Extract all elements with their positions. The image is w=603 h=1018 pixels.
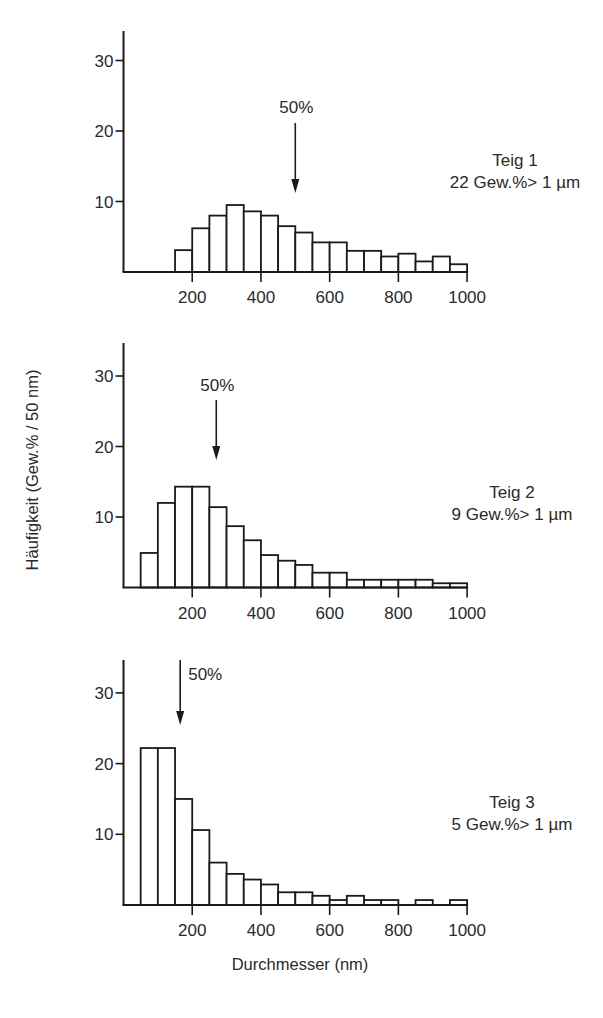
histogram-bar — [261, 555, 278, 587]
panel-3-title: Teig 3 — [437, 792, 587, 814]
x-tick-label: 600 — [315, 604, 343, 623]
arrow-head-icon — [212, 446, 220, 460]
histogram-bar — [278, 561, 295, 588]
panel-1-note: 22 Gew.%> 1 µm — [440, 172, 590, 194]
histogram-bar — [175, 487, 192, 588]
histogram-bar — [227, 874, 244, 905]
histogram-bar — [312, 896, 329, 905]
histogram-bar — [209, 507, 226, 587]
median-label: 50% — [188, 665, 222, 684]
x-axis-title: Durchmesser (nm) — [232, 955, 369, 974]
y-tick-label: 10 — [95, 193, 114, 212]
histogram-bar — [175, 799, 192, 905]
histogram-bar — [381, 256, 398, 272]
histogram-bar — [398, 254, 415, 272]
y-tick-label: 20 — [95, 755, 114, 774]
histogram-bar — [312, 242, 329, 272]
histogram-bar — [398, 580, 415, 588]
histogram-bar — [244, 211, 261, 272]
x-tick-label: 800 — [384, 604, 412, 623]
y-tick-label: 30 — [95, 684, 114, 703]
histogram-panel-1: 102030200400600800100050% — [95, 31, 486, 307]
histogram-bar — [278, 892, 295, 905]
histogram-panel-3: 102030200400600800100050% — [95, 660, 486, 940]
x-tick-label: 600 — [315, 288, 343, 307]
x-tick-label: 600 — [315, 921, 343, 940]
histogram-bar — [209, 863, 226, 905]
histogram-bar — [192, 487, 209, 588]
histogram-bar — [347, 580, 364, 588]
bars — [175, 205, 467, 272]
histogram-bar — [192, 228, 209, 272]
x-tick-label: 400 — [247, 288, 275, 307]
panel-1-label: Teig 1 22 Gew.%> 1 µm — [440, 150, 590, 194]
x-tick-label: 200 — [178, 604, 206, 623]
panel-1-title: Teig 1 — [440, 150, 590, 172]
histogram-bar — [141, 748, 158, 905]
arrow-head-icon — [176, 711, 184, 725]
histogram-bar — [312, 573, 329, 588]
bars — [141, 748, 467, 905]
median-arrow-annotation: 50% — [279, 98, 313, 193]
y-tick-label: 20 — [95, 122, 114, 141]
histogram-bar — [158, 748, 175, 905]
y-tick-label: 10 — [95, 508, 114, 527]
x-tick-label: 800 — [384, 288, 412, 307]
histogram-bar — [433, 256, 450, 272]
histogram-bar — [227, 205, 244, 272]
y-tick-label: 20 — [95, 438, 114, 457]
panel-3-note: 5 Gew.%> 1 µm — [437, 814, 587, 836]
y-axis-title: Häufigkeit (Gew.% / 50 nm) — [23, 370, 42, 571]
arrow-head-icon — [291, 179, 299, 193]
bars — [141, 487, 467, 588]
histogram-bar — [295, 233, 312, 272]
y-tick-label: 30 — [95, 52, 114, 71]
histogram-bar — [244, 540, 261, 587]
x-tick-label: 400 — [247, 604, 275, 623]
x-tick-label: 1000 — [448, 921, 486, 940]
histogram-bar — [450, 264, 467, 272]
histogram-bar — [141, 553, 158, 588]
histogram-bar — [244, 880, 261, 905]
histogram-bar — [295, 892, 312, 905]
x-tick-label: 200 — [178, 288, 206, 307]
panel-2-label: Teig 2 9 Gew.%> 1 µm — [437, 482, 587, 526]
x-tick-label: 200 — [178, 921, 206, 940]
histogram-bar — [347, 896, 364, 905]
histogram-bar — [261, 884, 278, 905]
histogram-bar — [261, 216, 278, 272]
y-tick-label: 10 — [95, 825, 114, 844]
histogram-bar — [227, 526, 244, 587]
x-tick-label: 1000 — [448, 604, 486, 623]
panel-2-note: 9 Gew.%> 1 µm — [437, 504, 587, 526]
histogram-bar — [330, 242, 347, 272]
histogram-bar — [364, 251, 381, 272]
histogram-bar — [381, 580, 398, 588]
histogram-bar — [175, 250, 192, 272]
histogram-bar — [364, 580, 381, 588]
x-tick-label: 400 — [247, 921, 275, 940]
histogram-bar — [416, 261, 433, 272]
x-tick-label: 800 — [384, 921, 412, 940]
histogram-bar — [192, 830, 209, 905]
median-label: 50% — [279, 98, 313, 117]
histogram-bar — [278, 226, 295, 272]
histogram-bar — [330, 573, 347, 588]
median-arrow-annotation: 50% — [176, 660, 222, 725]
y-tick-label: 30 — [95, 367, 114, 386]
panel-3-label: Teig 3 5 Gew.%> 1 µm — [437, 792, 587, 836]
histogram-bar — [209, 216, 226, 272]
histogram-panel-2: 102030200400600800100050% — [95, 343, 486, 623]
histogram-bar — [295, 565, 312, 588]
median-arrow-annotation: 50% — [200, 376, 234, 460]
panel-2-title: Teig 2 — [437, 482, 587, 504]
histogram-bar — [416, 580, 433, 588]
histogram-bar — [158, 503, 175, 588]
histogram-bar — [347, 251, 364, 272]
x-tick-label: 1000 — [448, 288, 486, 307]
median-label: 50% — [200, 376, 234, 395]
